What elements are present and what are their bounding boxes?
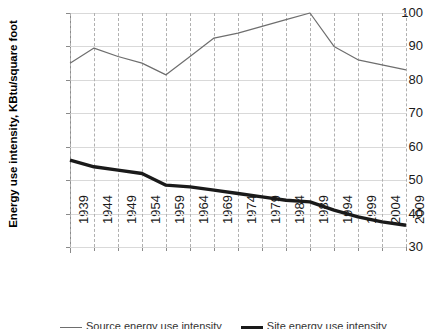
legend-item-source: Source energy use intensity <box>60 320 222 329</box>
legend-label-site: Site energy use intensity <box>267 320 387 329</box>
line-site-energy <box>70 160 406 225</box>
legend-swatch-thick-icon <box>241 326 263 329</box>
series-lines <box>70 13 406 247</box>
chart-legend: Source energy use intensity Site energy … <box>60 320 403 329</box>
legend-label-source: Source energy use intensity <box>86 320 222 329</box>
gridline-horizontal <box>70 247 406 248</box>
x-tick-mark <box>406 247 407 251</box>
gridline-vertical <box>406 13 407 247</box>
line-source-energy <box>70 13 406 75</box>
x-tick-label: 2009 <box>412 195 427 255</box>
y-axis-label: Energy use intensity, KBtu/square foot <box>7 0 19 249</box>
legend-item-site: Site energy use intensity <box>241 320 387 329</box>
legend-swatch-thin-icon <box>60 327 82 328</box>
plot-area <box>70 13 406 247</box>
